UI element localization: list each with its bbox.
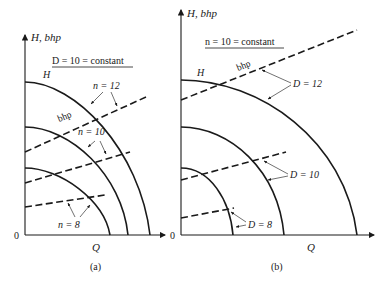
series-label-d12: D = 12 — [292, 78, 322, 89]
y-axis-label-b: H, bhp — [186, 7, 217, 19]
origin-label-a: 0 — [14, 230, 19, 241]
bhp-line-n12 — [25, 97, 146, 152]
caption-b: (b) — [271, 261, 283, 273]
head-curve-d12 — [181, 80, 357, 235]
leader-d8-head — [236, 225, 246, 227]
leader-d8-bhp — [231, 212, 246, 222]
bhp-line-d10 — [181, 152, 286, 180]
leader-n12-bhp — [111, 92, 117, 106]
bhp-line-n10 — [25, 152, 130, 183]
leader-d10-bhp — [264, 161, 288, 174]
bhp-line-d8 — [181, 208, 234, 218]
leader-n12-head — [91, 92, 103, 104]
leader-n8-bhp — [68, 203, 75, 217]
leader-d12-head — [268, 85, 291, 99]
head-label-b: H — [196, 67, 205, 78]
leader-d10-head — [268, 176, 288, 180]
series-label-d8: D = 8 — [247, 219, 272, 230]
bhp-label-b: bhp — [235, 58, 252, 73]
y-axis-label-a: H, bhp — [30, 31, 61, 43]
head-curve-d8 — [181, 168, 233, 235]
caption-a: (a) — [90, 261, 101, 273]
leader-d12-bhp — [262, 70, 291, 83]
pump-performance-diagram: H, bhp 0 Q (a) D = 10 = constant H bhp n… — [0, 0, 387, 283]
x-axis-label-a: Q — [92, 241, 100, 253]
series-label-n12: n = 12 — [93, 80, 120, 91]
leader-n10-bhp — [100, 141, 106, 154]
bhp-label-a: bhp — [56, 109, 73, 124]
head-curve-n12 — [25, 82, 150, 235]
leader-n10-head — [88, 141, 95, 147]
constant-label-a: D = 10 = constant — [52, 55, 124, 66]
constant-label-b: n = 10 = constant — [205, 36, 275, 47]
origin-label-b: 0 — [170, 230, 175, 241]
panel-a: H, bhp 0 Q (a) D = 10 = constant H bhp n… — [14, 31, 165, 273]
series-label-n8: n = 8 — [58, 219, 80, 230]
series-label-d10: D = 10 — [289, 169, 319, 180]
head-label-a: H — [42, 69, 51, 80]
x-axis-label-b: Q — [307, 241, 315, 253]
panel-b: H, bhp 0 Q (b) n = 10 = constant H bhp D… — [170, 7, 374, 273]
leader-n8-head — [80, 205, 90, 217]
series-label-n10: n = 10 — [78, 126, 105, 137]
